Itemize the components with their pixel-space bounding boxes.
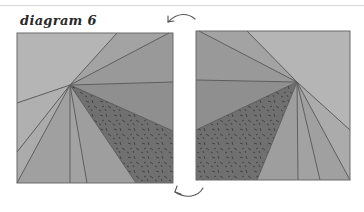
left-square [17, 33, 173, 183]
right-square [196, 31, 350, 180]
curved-arrow-left-icon [175, 186, 203, 196]
diagram-canvas [0, 0, 364, 212]
curved-arrow-left-icon [168, 14, 195, 22]
